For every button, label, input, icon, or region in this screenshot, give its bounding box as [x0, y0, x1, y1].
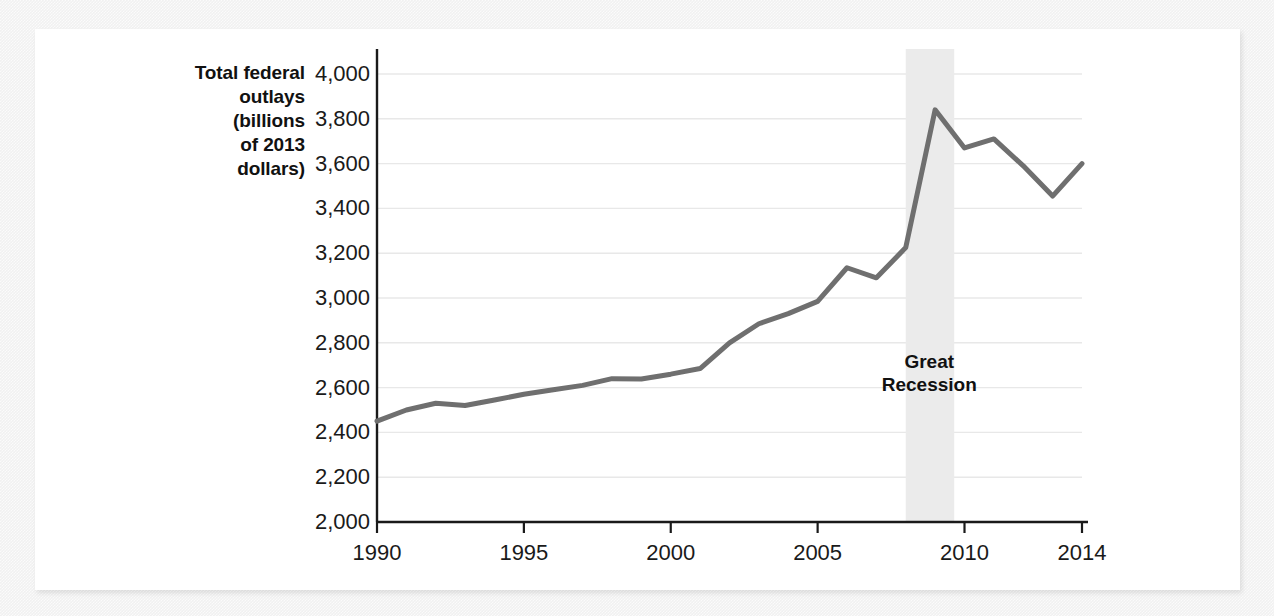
plot-canvas — [35, 29, 1240, 590]
recession-shaded-band — [906, 49, 954, 522]
great-recession-annotation: Great Recession — [882, 350, 977, 396]
axis-ticks — [377, 522, 1082, 533]
gridlines — [377, 74, 1082, 477]
axis-lines — [377, 49, 1088, 522]
figure-card: Total federal outlays (billions of 2013 … — [35, 29, 1240, 590]
line-chart: Total federal outlays (billions of 2013 … — [35, 29, 1240, 590]
